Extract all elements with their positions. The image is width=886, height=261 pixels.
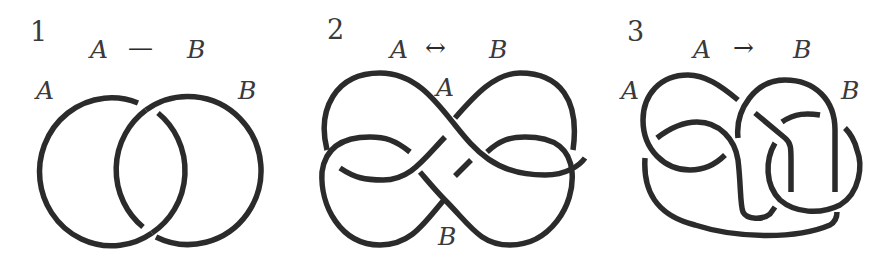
strand-center-dash [455,160,471,176]
loop-b-inner-arch [782,114,820,122]
loop-b-left-arc [116,110,146,227]
knotted-loops-diagram [595,0,886,261]
strand-left-lobe [322,137,443,245]
strand-a-upper-left [324,73,585,175]
loop-b-lower [768,128,860,211]
panel-2: 2 A ↔ B A B [295,0,595,261]
loop-a-inner-arc [152,113,185,233]
strand-right-lobe [420,137,572,245]
double-loop-diagram [295,0,595,261]
hopf-link-diagram [0,0,295,261]
panel-3: 3 A → B A B [595,0,886,261]
panel-1: 1 A — B A B [0,0,295,261]
